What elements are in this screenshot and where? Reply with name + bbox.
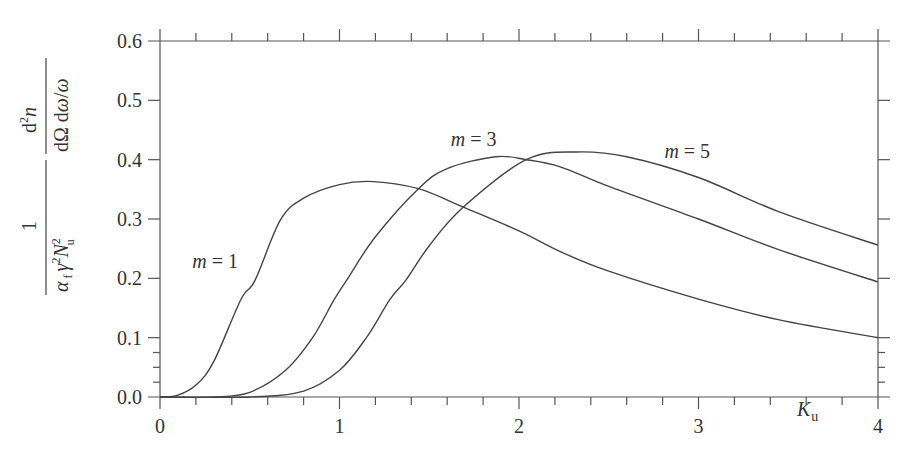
chart: 012340.00.10.20.30.40.50.6 m = 1m = 3m =… [0,0,921,461]
curve-label-m5: m = 5 [664,140,710,162]
x-tick-label: 1 [335,415,345,437]
y-tick-label: 0.2 [117,267,142,289]
y-label-denominator-left: α f γ2N2u [49,238,77,292]
curve-m1 [160,181,878,397]
y-label-numerator-1: 1 [18,221,40,231]
x-axis-label: Ku [796,398,818,424]
curve-m3 [160,156,878,397]
curve-label-m1: m = 1 [192,250,238,272]
tick-labels: 012340.00.10.20.30.40.50.6 [117,30,883,437]
x-tick-label: 4 [873,415,883,437]
x-tick-label: 0 [155,415,165,437]
y-tick-label: 0.5 [117,89,142,111]
y-tick-label: 0.1 [117,327,142,349]
y-label-numerator-2: d2n [17,107,40,133]
x-tick-label: 3 [694,415,704,437]
y-label-denominator-right: dΩ dω/ω [50,78,72,152]
plot-axes [148,29,890,409]
y-tick-label: 0.6 [117,30,142,52]
x-tick-label: 2 [514,415,524,437]
curve-m5 [160,152,878,398]
curve-labels: m = 1m = 3m = 5 [192,128,710,272]
y-tick-label: 0.3 [117,208,142,230]
data-curves [160,152,878,398]
curve-label-m3: m = 3 [451,128,497,150]
y-axis-label: 1 α f γ2N2u d2n dΩ dω/ω [17,58,77,295]
axis-ticks [148,29,890,409]
y-tick-label: 0.0 [117,386,142,408]
y-tick-label: 0.4 [117,149,142,171]
